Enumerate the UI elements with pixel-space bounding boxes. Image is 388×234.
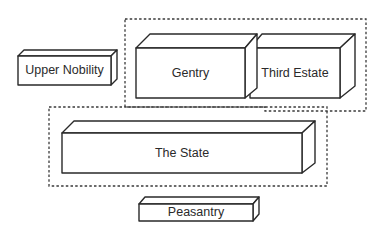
block-upper-nobility: Upper Nobility [18,50,117,85]
block-label: Third Estate [261,66,328,80]
block-top-face [139,197,259,204]
block-top-face [250,34,355,48]
diagram-canvas: Upper Nobility Third Estate Gentry The S… [0,0,388,234]
block-side-face [111,50,117,85]
block-top-face [18,50,117,56]
block-label: Gentry [172,66,210,80]
block-third-estate: Third Estate [250,34,355,98]
block-label: The State [155,146,209,160]
block-label: Upper Nobility [25,63,104,77]
block-peasantry: Peasantry [139,197,259,221]
block-label: Peasantry [168,205,225,219]
block-top-face [62,121,315,133]
block-top-face [136,34,257,48]
block-the-state: The State [62,121,315,173]
block-gentry: Gentry [136,34,257,98]
